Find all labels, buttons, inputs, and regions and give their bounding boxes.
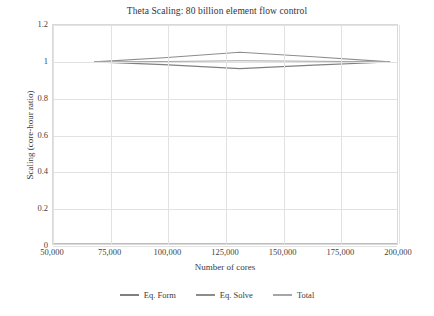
plot-area [52,24,398,245]
chart-legend: Eq. FormEq. SolveTotal [0,290,434,300]
y-tick-label: 0.6 [4,130,48,140]
x-tick-label: 75,000 [98,247,121,257]
legend-item[interactable]: Eq. Form [120,290,176,300]
gridline-horizontal [53,99,397,100]
y-axis-tick-labels: 00.20.40.60.811.2 [0,24,48,245]
gridline-vertical [226,25,227,244]
legend-item[interactable]: Eq. Solve [196,290,253,300]
x-tick-label: 100,000 [154,247,182,257]
x-tick-label: 125,000 [211,247,239,257]
gridline-horizontal [53,209,397,210]
y-tick-label: 0.8 [4,93,48,103]
gridline-vertical [399,25,400,244]
legend-swatch-icon [120,294,139,296]
legend-label: Eq. Solve [220,290,253,300]
gridline-horizontal [53,25,397,26]
gridline-vertical [53,25,54,244]
y-tick-label: 0.2 [4,203,48,213]
gridline-horizontal [53,172,397,173]
gridline-horizontal [53,62,397,63]
gridline-vertical [284,25,285,244]
gridline-vertical [111,25,112,244]
chart-container: Theta Scaling: 80 billion element flow c… [0,0,434,316]
legend-swatch-icon [196,294,215,296]
gridline-vertical [341,25,342,244]
gridline-horizontal [53,136,397,137]
x-tick-label: 150,000 [269,247,297,257]
series-line [95,62,390,69]
legend-swatch-icon [273,294,292,296]
x-tick-label: 50,000 [40,247,63,257]
x-tick-label: 175,000 [327,247,355,257]
y-tick-label: 0.4 [4,166,48,176]
legend-label: Total [297,290,314,300]
y-tick-label: 1.2 [4,19,48,29]
legend-label: Eq. Form [144,290,176,300]
y-tick-label: 1 [4,56,48,66]
chart-title: Theta Scaling: 80 billion element flow c… [0,6,434,16]
legend-item[interactable]: Total [273,290,314,300]
gridline-vertical [168,25,169,244]
x-axis-label: Number of cores [52,262,398,272]
x-tick-label: 200,000 [384,247,412,257]
x-axis-tick-labels: 50,00075,000100,000125,000150,000175,000… [52,247,398,261]
